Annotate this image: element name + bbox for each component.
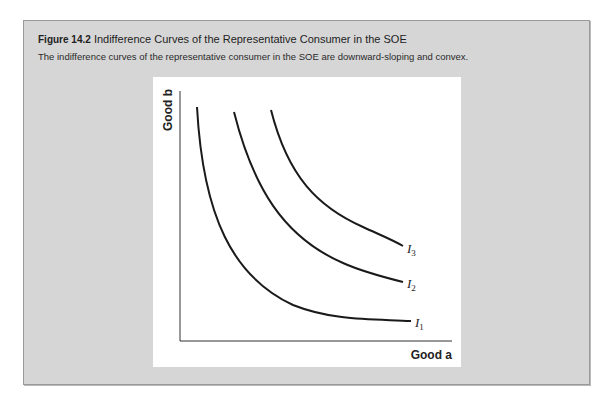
- figure-title-text: Indifference Curves of the Representativ…: [94, 33, 407, 45]
- x-axis-label: Good a: [411, 348, 453, 362]
- figure-description: The indifference curves of the represent…: [38, 51, 468, 62]
- curve-label-i1: I1: [414, 315, 424, 332]
- curve-label-i2: I2: [406, 276, 416, 293]
- figure-frame: Figure 14.2 Indifference Curves of the R…: [23, 20, 590, 385]
- curve-label-i3: I3: [406, 241, 416, 258]
- figure-title: Figure 14.2 Indifference Curves of the R…: [38, 33, 407, 45]
- indifference-chart: Good b Good a I1 I2 I3: [153, 77, 461, 367]
- chart-panel: Good b Good a I1 I2 I3: [153, 77, 461, 367]
- curve-i1: [197, 107, 411, 321]
- curve-i3: [271, 110, 403, 246]
- figure-number: Figure 14.2: [38, 34, 91, 45]
- y-axis-label: Good b: [161, 89, 175, 131]
- curve-i2: [234, 112, 403, 282]
